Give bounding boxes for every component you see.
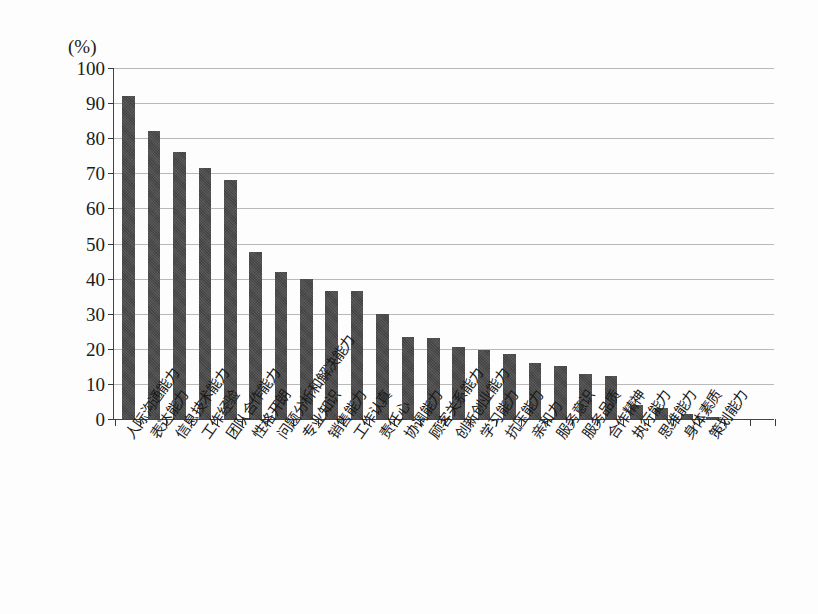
y-axis-unit-label: (%) <box>68 36 96 58</box>
bar-chart: (%) 0102030405060708090100 人际沟通能力表达能力信息技… <box>0 0 818 614</box>
y-axis-tick-label: 70 <box>86 164 105 183</box>
x-axis-tick <box>750 419 751 426</box>
bar <box>122 96 135 419</box>
y-axis-tick-label: 90 <box>86 94 105 113</box>
y-axis-tick-label: 80 <box>86 129 105 148</box>
y-axis-tick-label: 50 <box>86 234 105 253</box>
y-axis-tick-label: 20 <box>86 339 105 358</box>
x-axis-tick <box>115 419 116 426</box>
y-axis-tick-label: 10 <box>86 374 105 393</box>
y-axis-tick-label: 30 <box>86 304 105 323</box>
y-axis-tick-label: 60 <box>86 199 105 218</box>
y-axis-tick-label: 100 <box>77 59 106 78</box>
y-axis-tick-label: 0 <box>96 410 106 429</box>
y-axis-tick-label: 40 <box>86 269 105 288</box>
x-axis-tick <box>775 419 776 426</box>
